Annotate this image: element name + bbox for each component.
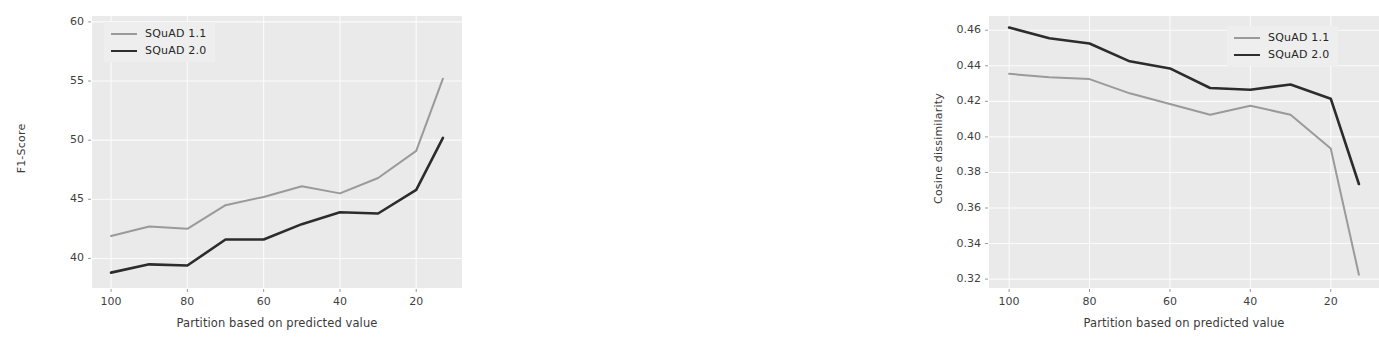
x-tick-label: 100 <box>86 295 136 308</box>
y-tick-label: 0.36 <box>937 201 981 214</box>
legend-right: SQuAD 1.1 SQuAD 2.0 <box>1227 26 1338 66</box>
x-tick-label: 40 <box>315 295 365 308</box>
y-tick-label: 0.32 <box>937 272 981 285</box>
chart-panel-cosine-dissimilarity: Cosine dissimilarity Partition based on … <box>467 0 934 346</box>
x-tick-label: 60 <box>1145 295 1195 308</box>
x-tick-label: 60 <box>239 295 289 308</box>
legend-item-squad-1-1: SQuAD 1.1 <box>111 27 206 40</box>
x-tick-label: 80 <box>1065 295 1115 308</box>
legend-line-icon <box>111 33 137 35</box>
y-tick-label: 45 <box>40 192 84 205</box>
legend-line-icon <box>111 50 137 52</box>
y-tick-label: 0.46 <box>937 23 981 36</box>
legend-item-squad-1-1: SQuAD 1.1 <box>1234 31 1329 44</box>
legend-label: SQuAD 2.0 <box>1268 48 1329 61</box>
x-axis-label-left: Partition based on predicted value <box>92 316 462 330</box>
y-tick-label: 0.34 <box>937 237 981 250</box>
legend-left: SQuAD 1.1 SQuAD 2.0 <box>104 22 215 62</box>
y-tick-label: 40 <box>40 251 84 264</box>
series-line-squad-2-0 <box>111 138 443 273</box>
legend-item-squad-2-0: SQuAD 2.0 <box>111 44 206 57</box>
y-tick-label: 0.42 <box>937 94 981 107</box>
y-tick-label: 0.38 <box>937 165 981 178</box>
y-tick-label: 0.44 <box>937 59 981 72</box>
x-tick-label: 40 <box>1225 295 1275 308</box>
y-tick-label: 0.40 <box>937 130 981 143</box>
legend-item-squad-2-0: SQuAD 2.0 <box>1234 48 1329 61</box>
legend-line-icon <box>1234 37 1260 39</box>
y-tick-label: 55 <box>40 74 84 87</box>
legend-label: SQuAD 1.1 <box>145 27 206 40</box>
x-tick-label: 20 <box>391 295 441 308</box>
legend-label: SQuAD 1.1 <box>1268 31 1329 44</box>
x-tick-label: 20 <box>1306 295 1356 308</box>
y-axis-label-left: F1-Score <box>15 104 28 194</box>
legend-line-icon <box>1234 54 1260 56</box>
x-axis-label-right: Partition based on predicted value <box>989 316 1379 330</box>
chart-panel-f1-score: F1-Score Partition based on predicted va… <box>0 0 467 346</box>
x-tick-label: 80 <box>162 295 212 308</box>
series-line-squad-1-1 <box>111 79 443 236</box>
x-tick-label: 100 <box>984 295 1034 308</box>
y-tick-label: 50 <box>40 133 84 146</box>
plot-svg-right <box>467 0 934 346</box>
legend-label: SQuAD 2.0 <box>145 44 206 57</box>
y-tick-label: 60 <box>40 15 84 28</box>
